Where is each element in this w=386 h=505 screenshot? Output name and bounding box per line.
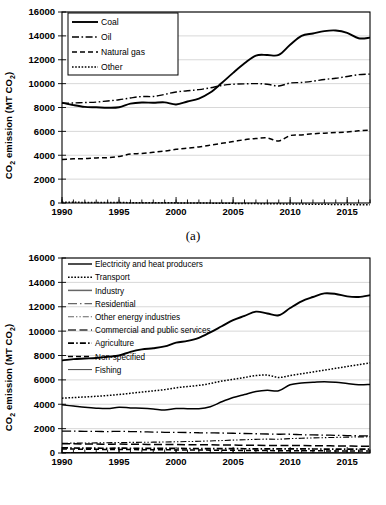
- x-tick-label: 1995: [108, 456, 130, 467]
- x-tick-label: 2010: [280, 206, 301, 217]
- plot-area-a: 0200040006000800010000120001400016000199…: [20, 0, 386, 250]
- panel-caption-a: (a): [0, 228, 386, 244]
- legend-label: Non-specified: [95, 353, 146, 362]
- y-axis-label-b: CO2 emission (MT CO2): [0, 250, 20, 505]
- x-tick-label: 1990: [51, 206, 72, 217]
- series-line: [62, 444, 370, 446]
- y-tick-label: 2000: [34, 423, 55, 434]
- y-tick-label: 6000: [34, 374, 55, 385]
- y-tick-label: 10000: [29, 326, 55, 337]
- series-line: [62, 437, 370, 443]
- legend-label: Other energy industries: [95, 313, 180, 322]
- chart-svg-b: 0200040006000800010000120001400016000199…: [20, 250, 386, 505]
- legend-label: Coal: [101, 17, 119, 27]
- legend-label: Agriculture: [95, 339, 135, 348]
- y-tick-label: 14000: [29, 277, 55, 288]
- y-tick-label: 8000: [34, 350, 55, 361]
- legend-label: Commercial and public services: [95, 326, 211, 335]
- x-tick-label: 1990: [51, 456, 72, 467]
- series-line: [62, 448, 370, 449]
- legend-label: Transport: [95, 273, 130, 282]
- x-tick-label: 1995: [108, 206, 130, 217]
- y-axis-label-a: CO2 emission (MT CO2): [0, 0, 20, 250]
- y-tick-label: 16000: [29, 6, 55, 17]
- y-tick-label: 16000: [29, 252, 55, 263]
- y-tick-label: 8000: [34, 102, 55, 113]
- x-tick-label: 2005: [223, 206, 245, 217]
- y-tick-label: 14000: [29, 30, 55, 41]
- figure-co2-emissions: CO2 emission (MT CO2) 020004000600080001…: [0, 0, 386, 505]
- y-tick-label: 10000: [29, 78, 55, 89]
- legend-label: Fishing: [95, 366, 122, 375]
- legend-label: Other: [101, 62, 123, 72]
- x-tick-label: 2015: [337, 456, 359, 467]
- plot-area-b: 0200040006000800010000120001400016000199…: [20, 250, 386, 505]
- series-line: [62, 431, 370, 436]
- y-tick-label: 12000: [29, 301, 55, 312]
- x-tick-label: 2000: [166, 206, 187, 217]
- y-tick-label: 6000: [34, 126, 55, 137]
- x-tick-label: 2000: [166, 456, 187, 467]
- x-tick-label: 2015: [337, 206, 359, 217]
- y-tick-label: 4000: [34, 150, 55, 161]
- y-tick-label: 4000: [34, 399, 55, 410]
- chart-svg-a: 0200040006000800010000120001400016000199…: [20, 0, 386, 250]
- x-tick-label: 2010: [280, 456, 301, 467]
- x-tick-label: 2005: [223, 456, 245, 467]
- legend-label: Residential: [95, 300, 136, 309]
- legend-label: Oil: [101, 32, 112, 42]
- y-tick-label: 2000: [34, 174, 55, 185]
- chart-panel-a: CO2 emission (MT CO2) 020004000600080001…: [0, 0, 386, 250]
- legend-label: Electricity and heat producers: [95, 260, 203, 269]
- chart-panel-b: CO2 emission (MT CO2) 020004000600080001…: [0, 250, 386, 505]
- legend-label: Natural gas: [101, 47, 145, 57]
- legend-label: Industry: [95, 287, 125, 296]
- y-tick-label: 12000: [29, 54, 55, 65]
